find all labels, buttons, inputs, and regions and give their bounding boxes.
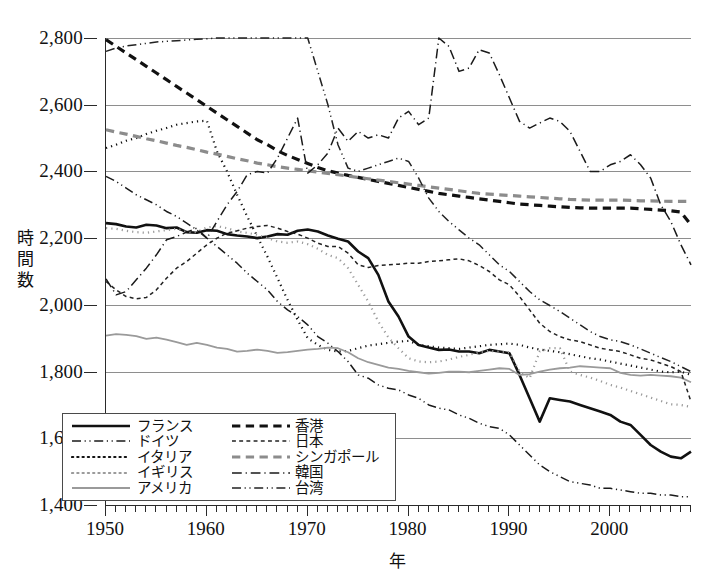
cropped-caption-sliver xyxy=(0,0,720,5)
x-minor-tick-1997 xyxy=(579,505,580,512)
legend-label-singapore: シンガポール xyxy=(293,450,389,465)
y-tick-label-1800: 1,800 xyxy=(39,362,83,381)
x-tick-label-1950: 1950 xyxy=(86,518,124,540)
x-major-tick-1950 xyxy=(105,505,106,516)
x-minor-tick-1979 xyxy=(398,505,399,512)
x-major-tick-1960 xyxy=(206,505,207,516)
x-minor-tick-2007 xyxy=(680,505,681,512)
x-minor-tick-1999 xyxy=(599,505,600,512)
series-line-singapore xyxy=(106,130,691,202)
x-minor-tick-1964 xyxy=(246,505,247,512)
x-minor-tick-1982 xyxy=(428,505,429,512)
y-tick-label-2000: 2,000 xyxy=(39,295,83,314)
x-minor-tick-1966 xyxy=(266,505,267,512)
legend-swatch-hongkong xyxy=(231,419,293,433)
legend-swatch-taiwan xyxy=(231,481,293,495)
x-minor-tick-1953 xyxy=(135,505,136,512)
x-minor-tick-1974 xyxy=(347,505,348,512)
y-tick-mark-1800 xyxy=(84,372,97,373)
chart-legend: フランス香港ドイツ日本イタリアシンガポールイギリス韓国アメリカ台湾 xyxy=(62,413,396,501)
x-minor-tick-1983 xyxy=(438,505,439,512)
x-axis: 年 195019601970198019902000 xyxy=(105,505,690,575)
x-minor-tick-1954 xyxy=(145,505,146,512)
x-minor-tick-1985 xyxy=(458,505,459,512)
x-minor-tick-1951 xyxy=(115,505,116,512)
legend-label-hongkong: 香港 xyxy=(293,419,389,434)
x-major-tick-1970 xyxy=(307,505,308,516)
series-line-japan xyxy=(106,225,691,401)
x-major-tick-1990 xyxy=(508,505,509,516)
legend-label-germany: ドイツ xyxy=(135,434,231,449)
legend-swatch-germany xyxy=(71,434,135,448)
x-minor-tick-1971 xyxy=(317,505,318,512)
x-minor-tick-1995 xyxy=(559,505,560,512)
y-tick-mark-2000 xyxy=(84,305,97,306)
legend-grid: フランス香港ドイツ日本イタリアシンガポールイギリス韓国アメリカ台湾 xyxy=(71,418,389,496)
x-minor-tick-1955 xyxy=(155,505,156,512)
x-minor-tick-1963 xyxy=(236,505,237,512)
x-minor-tick-1993 xyxy=(539,505,540,512)
x-minor-tick-1956 xyxy=(166,505,167,512)
x-minor-tick-1987 xyxy=(478,505,479,512)
y-tick-mark-2400 xyxy=(84,171,97,172)
legend-swatch-korea xyxy=(231,466,293,480)
legend-swatch-japan xyxy=(231,434,293,448)
legend-swatch-singapore xyxy=(231,450,293,464)
y-tick-label-2600: 2,600 xyxy=(39,95,83,114)
x-minor-tick-1957 xyxy=(176,505,177,512)
x-minor-tick-1984 xyxy=(448,505,449,512)
x-minor-tick-2001 xyxy=(619,505,620,512)
x-minor-tick-1994 xyxy=(549,505,550,512)
x-minor-tick-1969 xyxy=(297,505,298,512)
x-tick-label-1980: 1980 xyxy=(389,518,427,540)
x-minor-tick-1998 xyxy=(589,505,590,512)
legend-swatch-uk xyxy=(71,466,135,480)
x-minor-tick-2006 xyxy=(670,505,671,512)
x-minor-tick-1952 xyxy=(125,505,126,512)
x-minor-tick-1991 xyxy=(519,505,520,512)
x-minor-tick-2003 xyxy=(640,505,641,512)
x-minor-tick-2002 xyxy=(629,505,630,512)
x-minor-tick-1975 xyxy=(357,505,358,512)
y-tick-mark-1400 xyxy=(84,505,97,506)
x-major-tick-1980 xyxy=(408,505,409,516)
x-minor-tick-1986 xyxy=(468,505,469,512)
x-minor-tick-1977 xyxy=(377,505,378,512)
x-minor-tick-1996 xyxy=(569,505,570,512)
y-tick-mark-2600 xyxy=(84,105,97,106)
legend-label-taiwan: 台湾 xyxy=(293,481,389,496)
legend-swatch-italy xyxy=(71,450,135,464)
x-tick-label-1970: 1970 xyxy=(288,518,326,540)
x-minor-tick-1976 xyxy=(367,505,368,512)
legend-label-uk: イギリス xyxy=(135,465,231,480)
x-minor-tick-2008 xyxy=(690,505,691,512)
x-minor-tick-1962 xyxy=(226,505,227,512)
series-line-hongkong xyxy=(106,40,691,225)
x-minor-tick-1965 xyxy=(256,505,257,512)
x-minor-tick-1967 xyxy=(276,505,277,512)
legend-label-japan: 日本 xyxy=(293,434,389,449)
x-tick-label-1960: 1960 xyxy=(187,518,225,540)
x-minor-tick-2004 xyxy=(650,505,651,512)
x-minor-tick-2005 xyxy=(660,505,661,512)
legend-label-usa: アメリカ xyxy=(135,481,231,496)
x-minor-tick-1959 xyxy=(196,505,197,512)
chart-figure: 時間数 2,8002,6002,4002,2002,0001,8001,6001… xyxy=(0,0,720,576)
x-minor-tick-1992 xyxy=(529,505,530,512)
y-tick-label-2200: 2,200 xyxy=(39,228,83,247)
series-line-taiwan xyxy=(106,38,691,372)
legend-label-italy: イタリア xyxy=(135,450,231,465)
legend-label-korea: 韓国 xyxy=(293,465,389,480)
y-tick-label-2400: 2,400 xyxy=(39,161,83,180)
x-minor-tick-1978 xyxy=(387,505,388,512)
x-minor-tick-1958 xyxy=(186,505,187,512)
x-tick-label-2000: 2000 xyxy=(590,518,628,540)
x-minor-tick-1988 xyxy=(488,505,489,512)
series-line-usa xyxy=(106,334,691,382)
y-tick-mark-2200 xyxy=(84,238,97,239)
x-minor-tick-1973 xyxy=(337,505,338,512)
legend-label-france: フランス xyxy=(135,419,231,434)
legend-swatch-france xyxy=(71,419,135,433)
x-tick-label-1990: 1990 xyxy=(489,518,527,540)
x-minor-tick-1972 xyxy=(327,505,328,512)
